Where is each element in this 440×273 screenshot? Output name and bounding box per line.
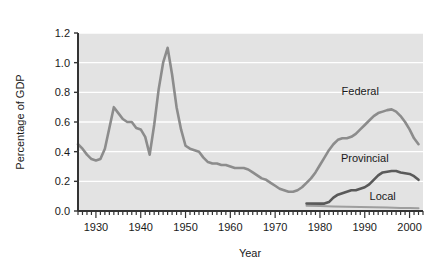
x-axis-tick-label: 1970: [263, 221, 287, 233]
x-axis-title: Year: [239, 247, 262, 259]
x-axis-tick-label: 1950: [173, 221, 197, 233]
y-axis-tick-label: 0.8: [55, 86, 70, 98]
y-axis-tick-label: 0.2: [55, 175, 70, 187]
series-label-federal: Federal: [342, 85, 379, 97]
y-axis-tick-label: 0.6: [55, 116, 70, 128]
y-axis-tick-label: 1.2: [55, 27, 70, 39]
x-axis-tick-label: 1930: [84, 221, 108, 233]
y-axis-title: Percentage of GDP: [14, 74, 26, 169]
chart-figure: 0.00.20.40.60.81.01.21930194019501960197…: [0, 0, 440, 273]
x-axis-tick-label: 1980: [308, 221, 332, 233]
series-label-local: Local: [370, 190, 396, 202]
series-label-provincial: Provincial: [341, 152, 389, 164]
y-axis-tick-label: 1.0: [55, 57, 70, 69]
x-axis-tick-label: 1960: [218, 221, 242, 233]
y-axis-tick-label: 0.4: [55, 146, 70, 158]
x-axis-tick-label: 1990: [353, 221, 377, 233]
x-axis-tick-label: 2000: [397, 221, 421, 233]
x-axis-tick-label: 1940: [128, 221, 152, 233]
y-axis-tick-label: 0.0: [55, 205, 70, 217]
line-chart: 0.00.20.40.60.81.01.21930194019501960197…: [0, 0, 440, 273]
